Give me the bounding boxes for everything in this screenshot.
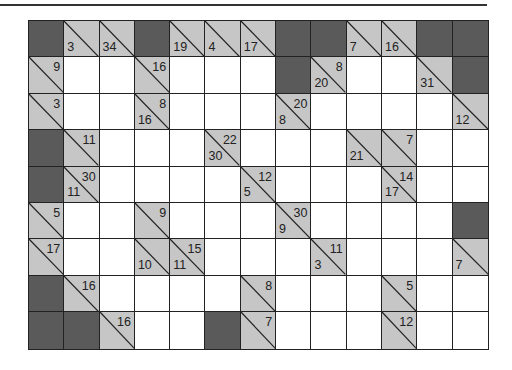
entry-cell[interactable] (64, 57, 99, 93)
down-clue: 17 (244, 41, 258, 54)
entry-cell[interactable] (100, 203, 135, 239)
entry-cell[interactable] (100, 167, 135, 203)
entry-cell[interactable] (453, 312, 488, 348)
entry-cell[interactable] (170, 312, 205, 348)
entry-cell[interactable] (347, 276, 382, 312)
across-clue: 9 (159, 207, 166, 220)
entry-cell[interactable] (100, 239, 135, 275)
entry-cell[interactable] (347, 167, 382, 203)
clue-cell: 7 (241, 312, 276, 348)
entry-cell[interactable] (417, 203, 452, 239)
blocked-cell (417, 21, 452, 57)
entry-cell[interactable] (453, 276, 488, 312)
down-clue: 5 (244, 186, 251, 199)
down-clue: 10 (138, 259, 152, 272)
down-clue: 31 (420, 77, 434, 90)
entry-cell[interactable] (311, 94, 346, 130)
clue-cell: 16 (382, 21, 417, 57)
entry-cell[interactable] (64, 203, 99, 239)
down-clue: 16 (138, 114, 152, 127)
down-clue: 3 (67, 41, 74, 54)
entry-cell[interactable] (276, 239, 311, 275)
entry-cell[interactable] (276, 167, 311, 203)
entry-cell[interactable] (241, 130, 276, 166)
down-clue: 34 (103, 41, 117, 54)
entry-cell[interactable] (276, 130, 311, 166)
blocked-cell (276, 57, 311, 93)
across-clue: 16 (152, 61, 166, 74)
entry-cell[interactable] (417, 276, 452, 312)
entry-cell[interactable] (311, 203, 346, 239)
entry-cell[interactable] (417, 167, 452, 203)
entry-cell[interactable] (64, 239, 99, 275)
entry-cell[interactable] (170, 94, 205, 130)
down-clue: 12 (456, 114, 470, 127)
across-clue: 12 (399, 316, 413, 329)
entry-cell[interactable] (100, 94, 135, 130)
entry-cell[interactable] (135, 276, 170, 312)
entry-cell[interactable] (135, 130, 170, 166)
entry-cell[interactable] (170, 276, 205, 312)
entry-cell[interactable] (64, 94, 99, 130)
entry-cell[interactable] (453, 167, 488, 203)
entry-cell[interactable] (241, 203, 276, 239)
entry-cell[interactable] (347, 57, 382, 93)
entry-cell[interactable] (347, 94, 382, 130)
entry-cell[interactable] (347, 312, 382, 348)
entry-cell[interactable] (311, 130, 346, 166)
entry-cell[interactable] (135, 167, 170, 203)
entry-cell[interactable] (382, 57, 417, 93)
across-clue: 8 (336, 61, 343, 74)
clue-cell: 9 (135, 203, 170, 239)
entry-cell[interactable] (311, 276, 346, 312)
entry-cell[interactable] (170, 57, 205, 93)
entry-cell[interactable] (276, 276, 311, 312)
entry-cell[interactable] (205, 167, 240, 203)
entry-cell[interactable] (205, 276, 240, 312)
entry-cell[interactable] (382, 94, 417, 130)
entry-cell[interactable] (170, 167, 205, 203)
across-clue: 17 (46, 243, 60, 256)
entry-cell[interactable] (382, 203, 417, 239)
entry-cell[interactable] (311, 312, 346, 348)
entry-cell[interactable] (417, 312, 452, 348)
entry-cell[interactable] (241, 239, 276, 275)
entry-cell[interactable] (417, 130, 452, 166)
entry-cell[interactable] (347, 239, 382, 275)
down-clue: 7 (350, 41, 357, 54)
across-clue: 16 (117, 316, 131, 329)
across-clue: 20 (293, 98, 307, 111)
entry-cell[interactable] (347, 203, 382, 239)
entry-cell[interactable] (205, 239, 240, 275)
entry-cell[interactable] (241, 57, 276, 93)
blocked-cell (135, 21, 170, 57)
entry-cell[interactable] (205, 57, 240, 93)
across-clue: 9 (53, 61, 60, 74)
entry-cell[interactable] (276, 312, 311, 348)
entry-cell[interactable] (170, 203, 205, 239)
entry-cell[interactable] (311, 167, 346, 203)
entry-cell[interactable] (205, 203, 240, 239)
entry-cell[interactable] (100, 276, 135, 312)
entry-cell[interactable] (135, 312, 170, 348)
clue-cell: 8 (241, 276, 276, 312)
across-clue: 16 (82, 280, 96, 293)
entry-cell[interactable] (417, 239, 452, 275)
entry-cell[interactable] (170, 130, 205, 166)
clue-cell: 7 (382, 130, 417, 166)
clue-cell: 512 (241, 167, 276, 203)
clue-cell: 3 (29, 94, 64, 130)
across-clue: 14 (399, 171, 413, 184)
across-clue: 5 (53, 207, 60, 220)
entry-cell[interactable] (205, 94, 240, 130)
entry-cell[interactable] (453, 130, 488, 166)
clue-cell: 34 (100, 21, 135, 57)
clue-cell: 17 (241, 21, 276, 57)
entry-cell[interactable] (241, 94, 276, 130)
entry-cell[interactable] (100, 57, 135, 93)
entry-cell[interactable] (382, 239, 417, 275)
clue-cell: 7 (347, 21, 382, 57)
across-clue: 7 (406, 134, 413, 147)
entry-cell[interactable] (100, 130, 135, 166)
entry-cell[interactable] (417, 94, 452, 130)
